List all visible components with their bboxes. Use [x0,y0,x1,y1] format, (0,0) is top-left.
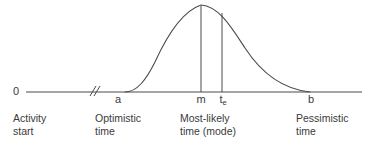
caption-optimistic-time: Optimistic time [95,112,141,138]
axis-break-icon [90,86,100,96]
caption-optimistic-time-line-2: time [95,125,141,138]
caption-most-likely-time-line-1: Most-likely [180,112,236,125]
caption-activity-start-line-1: Activity [13,112,46,125]
caption-optimistic-time-line-1: Optimistic [95,112,141,125]
caption-most-likely-time-line-2: time (mode) [180,125,236,138]
caption-pessimistic-time-line-1: Pessimistic [296,112,349,125]
pert-distribution-figure: 0 a m te b Activity start Optimistic tim… [0,0,372,147]
tick-label-m: m [191,93,211,105]
tick-label-b: b [301,93,321,105]
axis-origin-label: 0 [13,85,19,97]
caption-most-likely-time: Most-likely time (mode) [180,112,236,138]
tick-label-te: te [212,93,234,105]
caption-activity-start-line-2: start [13,125,46,138]
caption-pessimistic-time: Pessimistic time [296,112,349,138]
tick-label-te-subscript: e [222,98,226,107]
caption-pessimistic-time-line-2: time [296,125,349,138]
caption-activity-start: Activity start [13,112,46,138]
tick-label-a: a [108,93,128,105]
beta-distribution-curve [125,5,310,92]
